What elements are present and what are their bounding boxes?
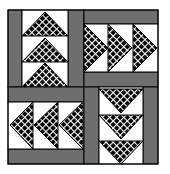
gray-strip-top: [84, 10, 158, 24]
block-top-right: [84, 10, 158, 87]
gray-strip-right: [143, 87, 158, 164]
block-bottom-right: [84, 87, 158, 164]
gray-strip-right: [68, 10, 84, 87]
gray-strip-top: [8, 87, 84, 102]
gray-strip-left: [84, 87, 99, 164]
gray-strip-bottom: [84, 72, 158, 87]
gray-strip-bottom: [8, 149, 84, 164]
gray-strip-left: [8, 10, 22, 87]
block-bottom-left: [8, 87, 84, 164]
flying-geese-quilt-block: [0, 0, 170, 174]
block-top-left: [8, 10, 84, 87]
